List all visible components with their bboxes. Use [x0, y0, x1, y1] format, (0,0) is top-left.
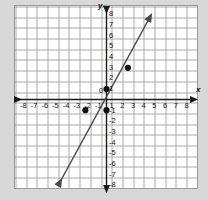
x-tick-label: -5 [52, 102, 59, 110]
x-tick-label: 5 [152, 102, 156, 110]
y-tick-label: 6 [109, 32, 113, 40]
y-tick-label: -3 [109, 128, 116, 136]
x-tick-label: 6 [163, 102, 167, 110]
x-axis-label: x [196, 86, 200, 94]
x-tick-label: -8 [20, 102, 27, 110]
data-point [125, 65, 131, 71]
y-tick-label: -4 [109, 139, 116, 147]
x-tick-label: 8 [184, 102, 188, 110]
x-tick-label: -6 [41, 102, 48, 110]
y-tick-label: 2 [109, 74, 113, 82]
x-tick-label: -4 [63, 102, 70, 110]
x-tick-label: 7 [174, 102, 178, 110]
figure-canvas: y x 0 -8 -7 -6 -5 -4 -3 -2 -1 1 2 3 4 5 … [0, 0, 208, 200]
y-tick-label: 5 [109, 42, 113, 50]
y-tick-label: 8 [109, 10, 113, 18]
x-tick-label: 3 [131, 102, 135, 110]
graph-svg [0, 0, 208, 200]
y-tick-label: 7 [109, 21, 113, 29]
y-tick-label: -2 [109, 117, 116, 125]
y-tick-label: -5 [109, 149, 116, 157]
x-tick-label: -3 [74, 102, 81, 110]
y-tick-label: -8 [109, 181, 116, 189]
y-tick-label: 3 [109, 64, 113, 72]
x-tick-label: 2 [120, 102, 124, 110]
y-tick-label: -1 [109, 107, 116, 115]
y-axis-label: y [98, 2, 102, 10]
y-tick-label: 4 [109, 53, 113, 61]
x-tick-label: -1 [95, 102, 102, 110]
x-tick-label: -7 [31, 102, 38, 110]
origin-label: 0 [99, 87, 103, 95]
y-tick-label: 1 [109, 85, 113, 93]
y-tick-label: -7 [109, 171, 116, 179]
x-tick-label: 4 [142, 102, 146, 110]
x-tick-label: -2 [84, 102, 91, 110]
y-tick-label: -6 [109, 160, 116, 168]
